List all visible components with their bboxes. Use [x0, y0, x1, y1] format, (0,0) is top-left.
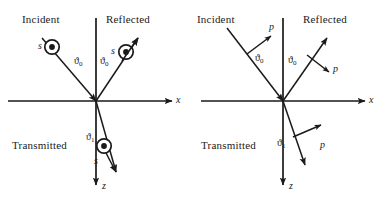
incident-s-label: s — [38, 41, 42, 51]
panel-p-vector-graphics — [193, 0, 385, 202]
incident-label: Incident — [22, 14, 60, 25]
reflected-label: Reflected — [303, 14, 347, 25]
z-axis-label: z — [102, 181, 106, 191]
reflected-angle-label: ϑ0 — [288, 55, 296, 67]
transmitted-label: Transmitted — [12, 140, 67, 151]
z-axis-label: z — [289, 181, 293, 191]
panel-s-polarization: Incident Reflected Transmitted s s s ϑ0 … — [0, 0, 192, 202]
panel-s-vector-graphics — [0, 0, 192, 202]
incident-label: Incident — [197, 14, 235, 25]
transmitted-angle-label: ϑ1 — [277, 138, 285, 150]
x-axis-label: x — [176, 95, 180, 105]
transmitted-ray-line — [96, 101, 116, 172]
incident-s-circled-dot-icon — [45, 40, 59, 54]
transmitted-s-circled-dot-icon — [97, 139, 111, 153]
incident-p-label: p — [269, 22, 274, 32]
transmitted-s-label: s — [94, 156, 98, 166]
x-axis-label: x — [369, 95, 373, 105]
reflected-label: Reflected — [106, 14, 150, 25]
transmitted-angle-label: ϑ1 — [86, 132, 94, 144]
reflected-p-vector-arrow — [307, 55, 329, 72]
transmitted-p-vector-arrow — [293, 125, 321, 137]
panel-p-polarization: Incident Reflected Transmitted p p p ϑ0 … — [193, 0, 385, 202]
reflected-s-label: s — [111, 46, 115, 56]
incident-angle-label: ϑ0 — [255, 53, 263, 65]
incident-angle-label: ϑ0 — [74, 56, 82, 68]
reflected-p-label: p — [333, 64, 338, 74]
transmitted-label: Transmitted — [201, 140, 256, 151]
reflected-ray-line — [283, 38, 327, 101]
figure-two-polarization-ray-diagrams: Incident Reflected Transmitted s s s ϑ0 … — [0, 0, 385, 202]
transmitted-p-label: p — [320, 140, 325, 150]
reflected-angle-label: ϑ0 — [100, 56, 108, 68]
